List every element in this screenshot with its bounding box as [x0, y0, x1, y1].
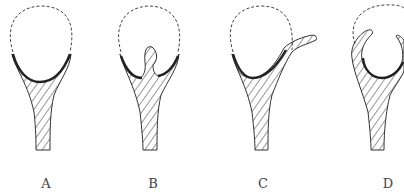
panel-b	[119, 6, 180, 150]
panel-c	[230, 6, 316, 150]
root-c	[232, 35, 317, 150]
crown-outline-a	[10, 6, 72, 52]
panel-label-d: D	[378, 176, 398, 191]
panel-label-a: A	[36, 176, 56, 191]
root-d	[352, 30, 404, 150]
crown-outline-b	[119, 6, 180, 52]
panel-label-b: B	[143, 176, 163, 191]
crown-outline-c	[230, 6, 292, 52]
panel-d	[352, 5, 404, 150]
panel-a	[10, 6, 72, 150]
root-b	[120, 47, 179, 150]
diagram-figure: A B C D	[0, 0, 404, 193]
panel-label-c: C	[253, 176, 273, 191]
diagram-svg	[0, 0, 404, 193]
